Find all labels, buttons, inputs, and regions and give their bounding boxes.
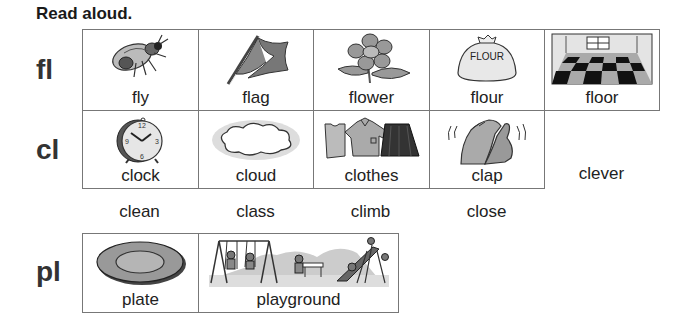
word-flag: flag [199, 88, 313, 108]
picture-card-clock: 12 3 6 9 clock [82, 110, 199, 189]
picture-card-playground: playground [198, 233, 399, 313]
flag-icon [199, 32, 313, 86]
picture-card-cloud: cloud [198, 110, 314, 189]
picture-card-flag: flag [198, 29, 314, 111]
svg-text:12: 12 [138, 122, 146, 129]
picture-card-fly: fly [82, 29, 199, 111]
svg-text:FLOUR: FLOUR [470, 51, 504, 62]
playground-icon [199, 236, 398, 290]
word-clock: clock [83, 166, 198, 186]
word-flower: flower [314, 88, 429, 108]
flower-icon [314, 32, 429, 86]
clapping-hands-icon [430, 113, 544, 167]
picture-card-plate: plate [82, 233, 199, 313]
clock-icon: 12 3 6 9 [83, 113, 198, 167]
word-clever: clever [544, 164, 659, 184]
word-playground: playground [199, 290, 398, 310]
picture-card-flour: FLOUR flour [429, 29, 545, 111]
plate-icon [83, 236, 198, 290]
svg-text:3: 3 [155, 138, 159, 145]
word-flour: flour [430, 88, 544, 108]
cloud-icon [199, 113, 313, 167]
clothes-icon [314, 113, 429, 167]
word-floor: floor [545, 88, 659, 108]
blend-label-pl: pl [36, 258, 61, 286]
picture-card-floor: floor [544, 29, 660, 111]
checkered-floor-icon [545, 32, 659, 86]
word-fly: fly [83, 88, 198, 108]
word-close: close [429, 202, 544, 222]
blend-label-cl: cl [36, 136, 59, 164]
picture-card-clap: clap [429, 110, 545, 189]
svg-text:9: 9 [125, 138, 129, 145]
picture-card-flower: flower [313, 29, 430, 111]
word-clap: clap [430, 166, 544, 186]
word-clothes: clothes [314, 166, 429, 186]
page-title: Read aloud. [36, 4, 132, 24]
word-climb: climb [313, 202, 428, 222]
blend-label-fl: fl [36, 56, 53, 84]
svg-text:6: 6 [140, 153, 144, 160]
word-plate: plate [83, 290, 198, 310]
word-clean: clean [82, 202, 197, 222]
flour-bag-icon: FLOUR [430, 32, 544, 86]
word-cloud: cloud [199, 166, 313, 186]
picture-card-clothes: clothes [313, 110, 430, 189]
word-class: class [198, 202, 313, 222]
fly-icon [83, 32, 198, 86]
